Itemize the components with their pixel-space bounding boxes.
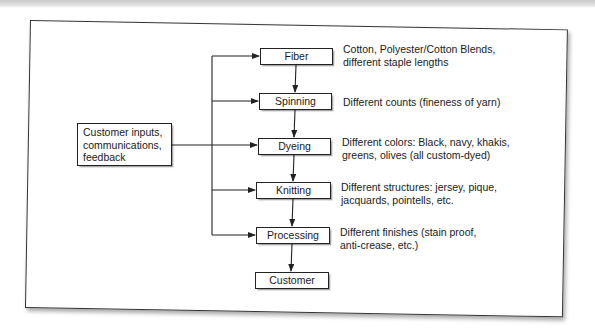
step-label: Customer <box>269 274 315 286</box>
step-label: Processing <box>267 229 319 241</box>
step-processing: Processing <box>256 227 330 244</box>
step-label: Dyeing <box>278 140 311 152</box>
step-spinning: Spinning <box>259 93 332 110</box>
customer-inputs-box: Customer inputs, communications, feedbac… <box>77 123 172 166</box>
step-dyeing: Dyeing <box>258 138 331 155</box>
dyeing-description: Different colors: Black, navy, khakis, g… <box>342 136 510 161</box>
fiber-description: Cotton, Polyester/Cotton Blends, differe… <box>343 43 495 68</box>
step-label: Fiber <box>285 50 309 62</box>
step-knitting: Knitting <box>256 182 331 199</box>
step-fiber: Fiber <box>260 48 333 65</box>
step-customer: Customer <box>255 272 329 289</box>
knitting-description: Different structures: jersey, pique, jac… <box>341 181 497 206</box>
processing-description: Different finishes (stain proof, anti-cr… <box>340 226 476 251</box>
spinning-description: Different counts (fineness of yarn) <box>343 96 500 109</box>
step-label: Spinning <box>275 95 316 107</box>
step-label: Knitting <box>276 184 311 196</box>
customer-inputs-label: Customer inputs, communications, feedbac… <box>83 126 162 163</box>
